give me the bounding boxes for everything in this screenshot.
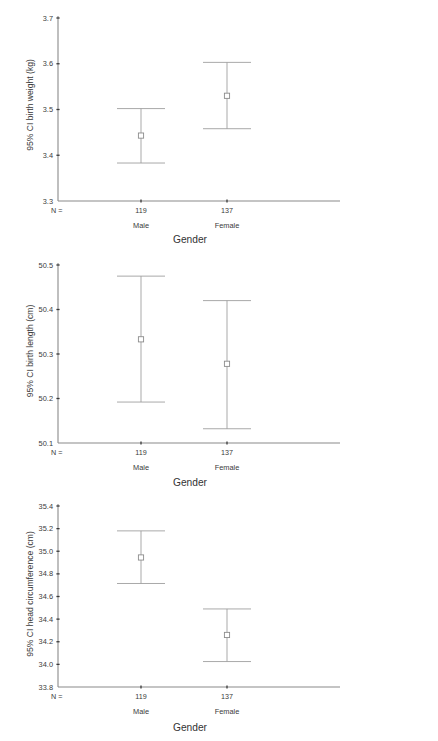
category-label-female: Female bbox=[215, 707, 240, 716]
plot-area-birth-weight: 3.33.43.53.63.795% CI birth weight (kg)N… bbox=[0, 0, 438, 247]
y-tick-label: 3.5 bbox=[43, 105, 53, 114]
group-count-female: 137 bbox=[221, 206, 233, 215]
group-count-female: 137 bbox=[221, 448, 233, 457]
mean-marker bbox=[224, 93, 229, 98]
x-axis-title: Gender bbox=[173, 477, 208, 488]
category-label-female: Female bbox=[215, 463, 240, 472]
chart-birth-length: 50.150.250.350.450.595% CI birth length … bbox=[0, 247, 438, 490]
chart-birth-weight: 3.33.43.53.63.795% CI birth weight (kg)N… bbox=[0, 0, 438, 247]
y-tick-label: 33.8 bbox=[39, 683, 53, 692]
y-tick-label: 50.4 bbox=[39, 305, 53, 314]
y-tick-label: 50.2 bbox=[39, 394, 53, 403]
category-label-female: Female bbox=[215, 221, 240, 230]
y-tick-label: 34.8 bbox=[39, 569, 53, 578]
mean-marker bbox=[138, 337, 143, 342]
y-tick-label: 35.4 bbox=[39, 502, 53, 511]
chart-head-circumference: 33.834.034.234.434.634.835.035.235.495% … bbox=[0, 490, 438, 741]
error-bar-male bbox=[117, 109, 165, 163]
x-axis-title: Gender bbox=[173, 722, 208, 733]
mean-marker bbox=[224, 632, 229, 637]
y-tick-label: 35.0 bbox=[39, 547, 53, 556]
plot-area-head-circumference: 33.834.034.234.434.634.835.035.235.495% … bbox=[0, 490, 438, 741]
y-axis-title: 95% CI birth weight (kg) bbox=[25, 59, 35, 151]
group-count-male: 119 bbox=[135, 448, 146, 457]
y-axis-title: 95% CI birth length (cm) bbox=[25, 305, 35, 398]
category-label-male: Male bbox=[133, 463, 149, 472]
y-tick-label: 50.1 bbox=[39, 439, 53, 448]
n-legend-label: N = bbox=[51, 692, 62, 701]
error-bar-female bbox=[203, 609, 251, 662]
plot-area-birth-length: 50.150.250.350.450.595% CI birth length … bbox=[0, 247, 438, 490]
y-axis-title: 95% CI head circumference (cm) bbox=[25, 531, 35, 657]
category-label-male: Male bbox=[133, 221, 149, 230]
y-tick-label: 34.0 bbox=[39, 660, 53, 669]
mean-marker bbox=[224, 361, 229, 366]
mean-marker bbox=[138, 133, 143, 138]
y-tick-label: 34.6 bbox=[39, 592, 53, 601]
n-legend-label: N = bbox=[51, 448, 62, 457]
y-tick-label: 3.3 bbox=[43, 197, 53, 206]
n-legend-label: N = bbox=[51, 206, 62, 215]
x-axis-title: Gender bbox=[173, 234, 208, 245]
group-count-female: 137 bbox=[221, 692, 233, 701]
y-tick-label: 34.4 bbox=[39, 615, 53, 624]
y-tick-label: 3.7 bbox=[43, 14, 53, 23]
error-bar-male bbox=[117, 531, 165, 584]
mean-marker bbox=[138, 555, 143, 560]
group-count-male: 119 bbox=[135, 206, 146, 215]
y-tick-label: 3.6 bbox=[43, 59, 53, 68]
y-tick-label: 3.4 bbox=[43, 151, 53, 160]
y-tick-label: 50.5 bbox=[39, 261, 53, 270]
y-tick-label: 50.3 bbox=[39, 350, 53, 359]
category-label-male: Male bbox=[133, 707, 149, 716]
error-bar-female bbox=[203, 62, 251, 128]
y-tick-label: 34.2 bbox=[39, 637, 53, 646]
y-tick-label: 35.2 bbox=[39, 524, 53, 533]
group-count-male: 119 bbox=[135, 692, 146, 701]
error-bar-male bbox=[117, 276, 165, 402]
error-bar-female bbox=[203, 301, 251, 429]
